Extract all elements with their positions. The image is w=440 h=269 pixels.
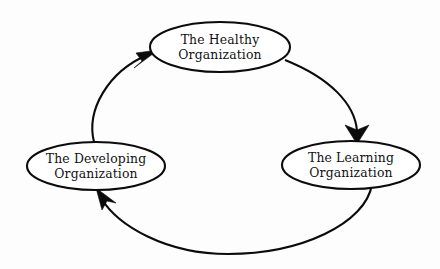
- node-healthy-organization-label-line2: Organization: [178, 47, 261, 62]
- edge-developing-to-healthy: [92, 50, 158, 142]
- arc-healthy-to-learning: [285, 60, 357, 131]
- node-learning-organization-label-line2: Organization: [309, 165, 392, 180]
- node-developing-organization-label-line2: Organization: [54, 166, 137, 181]
- node-learning-organization-label-line1: The Learning: [308, 150, 394, 165]
- node-learning-organization[interactable]: The Learning Organization: [282, 141, 420, 189]
- edge-learning-to-developing: [96, 184, 372, 254]
- arc-learning-to-developing: [101, 184, 372, 254]
- node-developing-organization-label-line1: The Developing: [46, 151, 146, 166]
- cycle-diagram-svg: The Healthy Organization The Learning Or…: [0, 0, 440, 269]
- cycle-diagram-canvas: The Healthy Organization The Learning Or…: [0, 0, 440, 269]
- node-healthy-organization[interactable]: The Healthy Organization: [150, 22, 290, 72]
- arc-developing-to-healthy: [92, 55, 147, 142]
- edge-healthy-to-learning: [285, 60, 369, 144]
- node-healthy-organization-label-line1: The Healthy: [181, 32, 260, 47]
- node-developing-organization[interactable]: The Developing Organization: [27, 142, 165, 190]
